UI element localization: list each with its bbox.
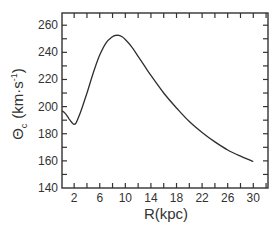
plot-border xyxy=(62,13,268,188)
y-axis-ticks xyxy=(62,25,268,174)
y-tick-label: 200 xyxy=(38,100,58,114)
y-tick-label: 180 xyxy=(38,127,58,141)
x-tick-label: 22 xyxy=(195,191,209,205)
rotation-curve-line xyxy=(62,35,253,161)
x-tick-label: 6 xyxy=(96,191,103,205)
y-axis-title: Θc(km·s-1) xyxy=(9,68,29,140)
x-tick-label: 2 xyxy=(71,191,78,205)
x-tick-label: 10 xyxy=(119,191,133,205)
plot-frame xyxy=(62,13,268,188)
x-axis-tick-labels: 26101418222630 xyxy=(71,191,260,205)
y-tick-label: 140 xyxy=(38,181,58,195)
x-tick-label: 14 xyxy=(144,191,158,205)
theta-subscript: c xyxy=(19,123,29,128)
x-tick-label: 26 xyxy=(221,191,235,205)
y-tick-label: 160 xyxy=(38,154,58,168)
rotation-curve-chart: 26101418222630 140160180200220240260 R(k… xyxy=(0,0,280,236)
theta-symbol: Θ xyxy=(9,128,26,140)
y-tick-label: 260 xyxy=(38,18,58,32)
x-tick-label: 18 xyxy=(170,191,184,205)
y-axis-tick-labels: 140160180200220240260 xyxy=(38,18,58,195)
x-axis-title: R(kpc) xyxy=(144,205,188,222)
svg-text:Θc(km·s-1): Θc(km·s-1) xyxy=(9,68,29,140)
y-tick-label: 220 xyxy=(38,72,58,86)
y-tick-label: 240 xyxy=(38,45,58,59)
x-tick-label: 30 xyxy=(247,191,261,205)
